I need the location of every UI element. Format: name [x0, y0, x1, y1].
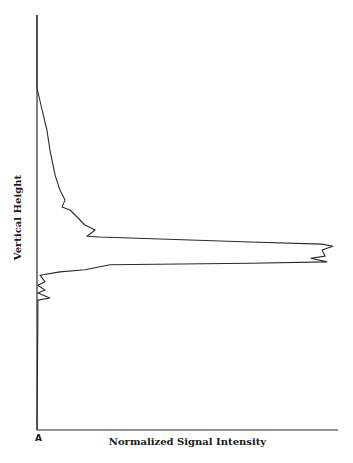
signal-curve [37, 15, 333, 430]
y-axis-label: Vertical Height [12, 163, 23, 273]
panel-label: A [35, 433, 42, 443]
x-axis-label: Normalized Signal Intensity [37, 436, 338, 447]
chart-canvas [0, 0, 353, 463]
